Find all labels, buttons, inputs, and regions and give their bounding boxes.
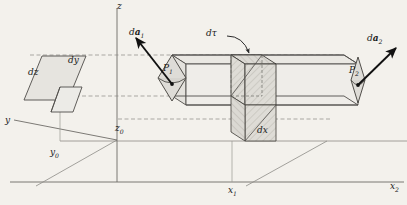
label-p1: P1 [163, 64, 173, 75]
dtau-front-face [245, 64, 276, 105]
label-da2: da2 [367, 34, 383, 45]
label-dy: dy [68, 56, 79, 65]
volume-element-dtau [231, 55, 276, 141]
label-da1: da1 [129, 28, 145, 39]
axis-label-y0: y0 [50, 148, 59, 159]
flux-tube-diagram [0, 0, 407, 205]
axis-label-z: z [117, 2, 122, 11]
axis-label-x1: x1 [228, 186, 237, 197]
axis-label-z0: z0 [115, 124, 124, 135]
axis-label-x2: x2 [390, 182, 399, 193]
label-p2: P2 [349, 66, 359, 77]
label-dtau: dτ [206, 29, 217, 38]
label-dx: dx [257, 126, 268, 135]
axis-label-y: y [5, 116, 10, 125]
label-dz: dz [28, 68, 39, 77]
